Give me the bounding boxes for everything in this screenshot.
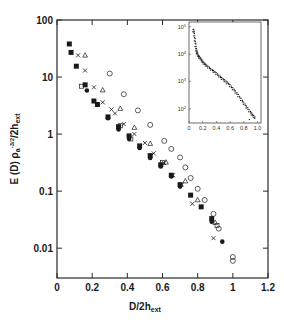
inset-y-tick-label: 103 [178,77,187,84]
y-tick-label: 100 [36,15,53,26]
y-tick-label: 10 [42,72,54,83]
x-tick-label: 0.2 [85,282,99,293]
x-tick-label: 0 [54,282,60,293]
y-tick-label: 0.1 [39,186,53,197]
y-tick-label: 0.01 [34,243,54,254]
inset-y-tick-label: 102 [178,105,187,112]
inset-x-tick-label: 0 [187,125,190,131]
inset-chart: 00.20.40.60.81.0105104103102 [178,22,262,131]
x-tick-label: 0.4 [120,282,134,293]
x-tick-label: 1 [230,282,236,293]
x-tick-label: 0.8 [191,282,205,293]
inset-x-tick-label: 0.8 [240,125,248,131]
x-tick-label: 0.6 [156,282,170,293]
inset-x-tick-label: 0.6 [226,125,234,131]
inset-y-tick-label: 104 [178,50,187,57]
inset-x-tick-label: 0.2 [199,125,207,131]
x-tick-label: 1.2 [261,282,275,293]
x-axis-label: D/2hext [129,301,161,313]
inset-x-tick-label: 0.4 [213,125,221,131]
inset-y-tick-label: 105 [178,23,187,30]
inset-x-tick-label: 1.0 [254,125,262,131]
y-axis-label: E (D) ρa-3/2/2hext [9,113,21,185]
y-tick-label: 1 [47,129,53,140]
chart: 00.20.40.60.811.2 1001010.10.01 00.20.40… [0,0,284,322]
